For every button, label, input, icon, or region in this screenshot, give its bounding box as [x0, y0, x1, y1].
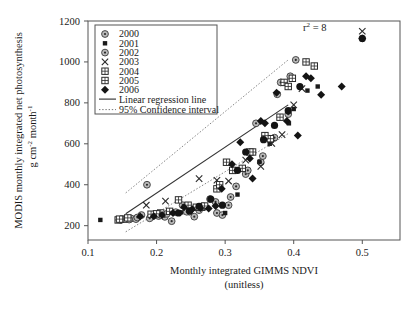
- data-point-dark: [186, 207, 193, 214]
- data-point-2001: [316, 84, 320, 88]
- data-point-2000-center: [295, 59, 297, 61]
- data-point-2000-center: [146, 184, 148, 186]
- legend-marker-2000-center: [104, 33, 106, 35]
- data-point-2006: [317, 91, 325, 99]
- data-point-2000-center: [235, 185, 237, 187]
- data-point-dark: [260, 136, 267, 143]
- data-point-dark: [219, 202, 226, 209]
- x-tick-label: 0.1: [81, 247, 94, 258]
- y-tick-label: 400: [64, 179, 80, 190]
- data-point-2003: [359, 28, 365, 34]
- legend-marker-2001: [103, 41, 107, 45]
- data-point-2005: [125, 215, 131, 221]
- y-tick-label: 800: [64, 97, 80, 108]
- y-tick-label: 600: [64, 138, 80, 149]
- data-point-dark: [234, 167, 241, 174]
- legend-marker-2005: [102, 77, 108, 83]
- data-point-dark: [175, 209, 182, 216]
- scatter-plot-figure: 0.10.20.30.40.520040060080010001200Month…: [0, 0, 420, 310]
- data-point-2004: [303, 59, 309, 65]
- y-tick-label: 1200: [59, 16, 80, 27]
- data-point-2002-center: [230, 196, 232, 198]
- x-tick-label: 0.2: [150, 247, 163, 258]
- data-point-2004: [175, 197, 181, 203]
- data-point-2000-center: [255, 122, 257, 124]
- data-point-2000-center: [171, 220, 173, 222]
- data-point-2005: [277, 114, 283, 120]
- data-point-2001: [292, 107, 296, 111]
- data-point-2000-center: [216, 212, 218, 214]
- data-point-2004: [311, 63, 317, 69]
- data-point-2005: [289, 75, 295, 81]
- chart-canvas: 0.10.20.30.40.520040060080010001200Month…: [0, 0, 420, 310]
- data-point-dark: [359, 35, 366, 42]
- x-axis-subtitle: (unitless): [224, 279, 264, 291]
- data-point-dark: [285, 107, 292, 114]
- x-axis-title: Monthly integrated GIMMS NDVI: [170, 265, 318, 276]
- data-point-2004: [285, 83, 291, 89]
- data-point-2003: [143, 202, 149, 208]
- data-point-2001: [98, 218, 102, 222]
- data-point-2003: [225, 178, 231, 184]
- y-axis-units: g cm-2 month-1: [26, 105, 38, 167]
- data-point-2002-center: [247, 169, 249, 171]
- data-point-2006: [294, 132, 302, 140]
- x-tick-label: 0.4: [287, 247, 301, 258]
- data-point-dark: [296, 83, 303, 90]
- y-tick-label: 1000: [59, 56, 80, 67]
- legend-label-line-0: Linear regression line: [119, 94, 207, 105]
- r-squared-annotation: r2 = 8: [303, 21, 326, 33]
- data-point-2005: [116, 216, 122, 222]
- data-point-dark: [271, 122, 278, 129]
- legend-marker-2002-center: [104, 52, 106, 54]
- x-tick-label: 0.3: [219, 247, 232, 258]
- data-point-2003: [162, 198, 168, 204]
- data-point-2006: [338, 82, 346, 90]
- data-point-dark: [242, 148, 249, 155]
- x-tick-label: 0.5: [356, 247, 369, 258]
- data-point-2006: [249, 175, 257, 183]
- y-tick-label: 200: [64, 220, 80, 231]
- data-point-2002-center: [262, 155, 264, 157]
- data-point-dark: [207, 195, 214, 202]
- legend-marker-2004: [102, 68, 108, 74]
- y-axis-title: MODIS monthly integrated net photosynthe…: [13, 32, 24, 229]
- legend-label-line-1: 95% Confidence interval: [119, 104, 219, 115]
- data-point-2003: [196, 175, 202, 181]
- data-point-dark: [195, 203, 202, 210]
- data-point-2001: [223, 211, 227, 215]
- data-point-2001: [235, 192, 239, 196]
- data-point-2000-center: [193, 216, 195, 218]
- data-point-2001: [305, 88, 309, 92]
- data-point-2000-center: [227, 204, 229, 206]
